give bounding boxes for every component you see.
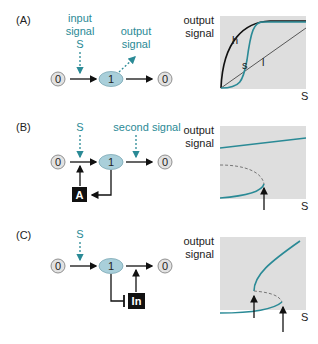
plot-a-xlabel: S — [301, 90, 308, 102]
plot-b-area — [220, 126, 306, 199]
node-active-label: 1 — [108, 260, 114, 272]
panel-a-label: (A) — [16, 14, 31, 26]
plot-c-xlabel: S — [301, 311, 308, 323]
panel-a: (A) input signal S output signal 0 1 0 o… — [16, 12, 308, 102]
second-signal-label: second signal — [113, 121, 180, 133]
plot-c-area — [220, 237, 306, 310]
plot-c-ylabel-2: signal — [185, 248, 214, 260]
curve-label-h: h — [232, 34, 238, 46]
node-zero-left-label: 0 — [55, 73, 61, 85]
inhibition-line — [111, 274, 124, 301]
output-signal-arrow — [119, 57, 135, 72]
output-signal-line1: output — [121, 25, 152, 37]
node-active-label: 1 — [108, 156, 114, 168]
plot-a-area — [220, 16, 306, 89]
plot-b-ylabel-2: signal — [185, 137, 214, 149]
input-signal-line3: S — [76, 38, 83, 50]
input-signal-s: S — [76, 228, 83, 240]
node-zero-left-label: 0 — [55, 156, 61, 168]
plot-a-ylabel-1: output — [183, 14, 214, 26]
curve-label-s: s — [242, 59, 248, 71]
input-signal-line2: signal — [66, 25, 95, 37]
panel-c-label: (C) — [16, 229, 31, 241]
node-active-label: 1 — [108, 73, 114, 85]
input-signal-s: S — [76, 121, 83, 133]
curve-label-l: l — [262, 56, 264, 68]
inhibitor-label: In — [132, 295, 142, 307]
activator-label: A — [76, 189, 84, 201]
node-zero-left-label: 0 — [55, 260, 61, 272]
plot-b-ylabel-1: output — [183, 124, 214, 136]
plot-b-xlabel: S — [301, 200, 308, 212]
plot-c-ylabel-1: output — [183, 235, 214, 247]
plot-a-ylabel-2: signal — [185, 27, 214, 39]
panel-b: (B) S second signal 0 1 0 A output signa… — [16, 121, 308, 212]
output-signal-line2: signal — [122, 38, 151, 50]
feedback-line-to-a — [92, 170, 111, 195]
node-zero-right-label: 0 — [162, 73, 168, 85]
node-zero-right-label: 0 — [162, 260, 168, 272]
panel-b-label: (B) — [16, 121, 31, 133]
node-zero-right-label: 0 — [162, 156, 168, 168]
signaling-diagram: (A) input signal S output signal 0 1 0 o… — [0, 0, 318, 344]
panel-c: (C) S 0 1 0 In output signal S — [16, 228, 308, 332]
input-signal-line1: input — [68, 12, 92, 24]
